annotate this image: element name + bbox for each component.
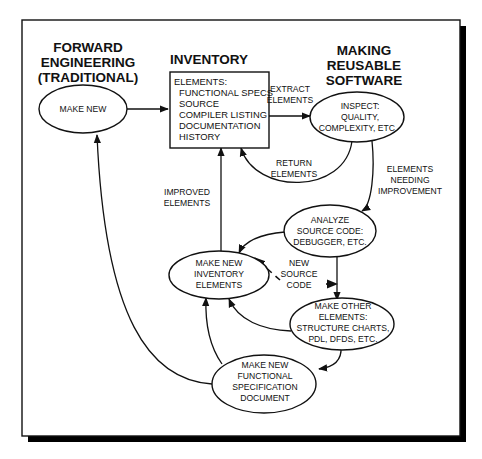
inventory-item: HISTORY: [179, 131, 221, 142]
node-label: DEBUGGER, ETC.: [293, 237, 367, 247]
edge-label: NEEDING: [390, 175, 429, 185]
inventory-item: FUNCTIONAL SPECS: [179, 87, 273, 98]
heading-making-reusable-software: MAKING REUSABLE SOFTWARE: [326, 43, 403, 88]
node-make-new-functional-spec: MAKE NEW FUNCTIONAL SPECIFICATION DOCUME…: [212, 355, 316, 413]
node-label: FUNCTIONAL: [238, 371, 293, 381]
heading-line: (TRADITIONAL): [38, 70, 138, 85]
node-label: ELEMENTS: [196, 280, 243, 290]
node-make-new-inventory-elements: MAKE NEW INVENTORY ELEMENTS: [169, 251, 269, 299]
edge-label: IMPROVED: [164, 187, 210, 197]
inventory-title: ELEMENTS:: [174, 76, 227, 87]
node-label: PDL, DFDS, ETC.: [308, 334, 377, 344]
node-label: SPECIFICATION: [232, 382, 297, 392]
edge-label: ELEMENTS: [387, 164, 434, 174]
node-analyze-source-code: ANALYZE SOURCE CODE: DEBUGGER, ETC.: [284, 205, 376, 257]
heading-line: FORWARD: [53, 40, 123, 55]
node-make-new: MAKE NEW: [39, 85, 127, 133]
edge-label: IMPROVEMENT: [378, 186, 443, 196]
node-label: MAKE NEW: [60, 104, 108, 114]
node-label: INVENTORY: [194, 269, 244, 279]
edge-label: RETURN: [276, 158, 312, 168]
edge-label: NEW: [289, 258, 310, 268]
label-improved-elements: IMPROVED ELEMENTS: [164, 187, 211, 208]
reusable-software-diagram: FORWARD ENGINEERING (TRADITIONAL) INVENT…: [0, 0, 482, 459]
label-extract-elements: EXTRACT ELEMENTS: [267, 84, 314, 105]
node-inventory-box: ELEMENTS: FUNCTIONAL SPECS SOURCE COMPIL…: [170, 72, 273, 148]
heading-line: SOFTWARE: [326, 73, 403, 88]
edge-label: ELEMENTS: [271, 169, 318, 179]
heading-inventory: INVENTORY: [170, 52, 248, 67]
node-label: MAKE OTHER: [315, 301, 372, 311]
node-label: SOURCE CODE:: [297, 226, 363, 236]
node-label: QUALITY,: [341, 112, 379, 122]
node-inspect: INSPECT: QUALITY, COMPLEXITY, ETC.: [310, 92, 404, 142]
node-label: DOCUMENT: [240, 393, 290, 403]
node-label: ELEMENTS:: [319, 312, 368, 322]
edge-label: EXTRACT: [270, 84, 311, 94]
heading-line: ENGINEERING: [41, 55, 136, 70]
node-label: INSPECT:: [341, 101, 380, 111]
inventory-item: DOCUMENTATION: [179, 120, 260, 131]
inventory-item: COMPILER LISTING: [179, 109, 267, 120]
edge-label: ELEMENTS: [267, 95, 314, 105]
heading-line: REUSABLE: [327, 58, 401, 73]
node-label: STRUCTURE CHARTS,: [297, 323, 390, 333]
inventory-item: SOURCE: [179, 98, 219, 109]
edge-label: ELEMENTS: [164, 198, 211, 208]
edge-label: SOURCE: [281, 269, 318, 279]
node-label: COMPLEXITY, ETC.: [319, 123, 398, 133]
node-label: ANALYZE: [311, 215, 350, 225]
node-label: MAKE NEW: [196, 258, 244, 268]
edge-label: CODE: [287, 280, 312, 290]
heading-line: MAKING: [337, 43, 392, 58]
node-label: MAKE NEW: [242, 360, 290, 370]
node-make-other-elements: MAKE OTHER ELEMENTS: STRUCTURE CHARTS, P…: [290, 298, 394, 350]
label-return-elements: RETURN ELEMENTS: [271, 158, 318, 179]
